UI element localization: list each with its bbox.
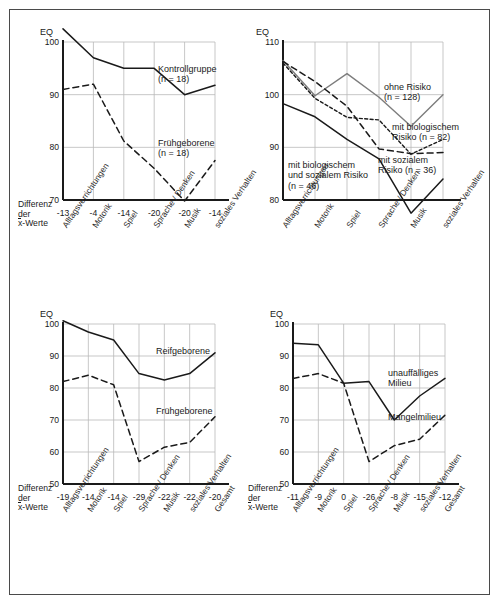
y-tick-label: 60 (18, 447, 62, 457)
y-tick-label: 70 (248, 415, 292, 425)
x-bar-symbol: x (18, 219, 22, 229)
y-tick-label: 70 (18, 195, 62, 205)
chart-svg-top-right (256, 28, 486, 288)
y-tick-label: 90 (248, 351, 292, 361)
difference-word-2: der (18, 493, 30, 503)
chart-panel-bottom-right: EQ Differenz der x-Werte 5060708090100-1… (248, 310, 478, 590)
y-axis-unit-top-left: EQ (40, 27, 53, 37)
series-annotation: Frühgeborene (n = 18) (158, 138, 215, 159)
y-tick-label: 100 (18, 319, 62, 329)
y-axis-unit-bottom-right: EQ (270, 309, 283, 319)
y-tick-label: 90 (18, 351, 62, 361)
x-bar-symbol: x (18, 503, 22, 513)
y-tick-label: 80 (18, 142, 62, 152)
difference-word-3: -Werte (252, 502, 278, 512)
difference-word-2: der (18, 209, 30, 219)
series-annotation: Kontrollgruppe (n = 18) (158, 64, 217, 85)
series-annotation: unauffälliges Milieu (388, 368, 438, 389)
chart-panel-bottom-left: EQ Differenz der x-Werte 5060708090100-1… (18, 310, 238, 590)
y-tick-label: 80 (248, 383, 292, 393)
series-annotation: Reifgeborene (156, 346, 210, 356)
y-tick-label: 100 (256, 90, 282, 100)
x-bar-symbol: x (248, 503, 252, 513)
y-tick-label: 100 (18, 37, 62, 47)
y-tick-label: 90 (18, 90, 62, 100)
chart-panel-top-right: EQ 8090100110AlltagsverrichtungenMotorik… (256, 28, 486, 288)
figure-page: EQ Differenz der x-Werte 708090100-13-4-… (0, 0, 499, 604)
y-axis-unit-top-right: EQ (256, 27, 269, 37)
series-annotation: mit biologischem und sozialem Risiko (n … (288, 160, 368, 191)
y-tick-label: 50 (18, 479, 62, 489)
chart-panel-top-left: EQ Differenz der x-Werte 708090100-13-4-… (18, 28, 238, 288)
series-annotation: Mangelmilieu (388, 412, 441, 422)
y-tick-label: 110 (256, 37, 282, 47)
y-tick-label: 80 (18, 383, 62, 393)
series-annotation: Frühgeborene (156, 406, 213, 416)
y-tick-label: 90 (256, 142, 282, 152)
y-tick-label: 60 (248, 447, 292, 457)
y-tick-label: 50 (248, 479, 292, 489)
y-tick-label: 80 (256, 195, 282, 205)
series-annotation: ohne Risiko (n = 128) (384, 82, 431, 103)
difference-word-3: -Werte (22, 218, 48, 228)
series-annotation: mit biologischem Risiko (n = 82) (392, 122, 459, 143)
series-annotation: mit sozialem Risiko (n = 36) (378, 155, 436, 176)
y-tick-label: 70 (18, 415, 62, 425)
y-axis-unit-bottom-left: EQ (40, 309, 53, 319)
difference-word-2: der (248, 493, 260, 503)
difference-word-3: -Werte (22, 502, 48, 512)
y-tick-label: 100 (248, 319, 292, 329)
